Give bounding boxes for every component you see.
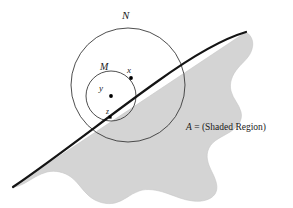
figure-container: N M x y z A = (Shaded Region) [0,0,293,208]
caption-shaded-region: A = (Shaded Region) [186,123,266,133]
figure-canvas [0,0,293,208]
label-point-x: x [127,66,131,75]
point-y-marker [109,94,113,98]
caption-equals: = [192,122,202,132]
label-point-y: y [99,84,103,93]
label-point-z: z [106,108,109,116]
label-inner-circle-m: M [100,62,108,72]
shaded-region-a [13,32,253,204]
point-z-marker [109,116,112,119]
label-outer-circle-n: N [122,10,129,21]
point-x-marker [129,76,133,80]
caption-description: (Shaded Region) [202,122,266,132]
